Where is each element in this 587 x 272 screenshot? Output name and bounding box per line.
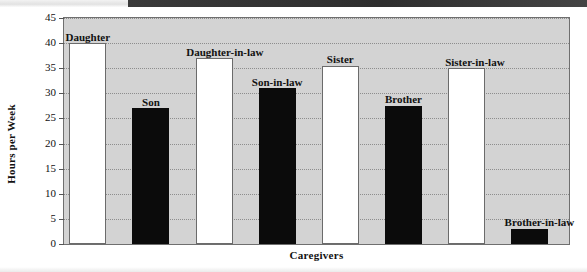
y-tick-mark [59, 244, 64, 245]
y-tick-label: 5 [51, 212, 57, 223]
bar-sister-in-law: Sister-in-law [448, 68, 485, 244]
bar-label: Daughter [66, 32, 111, 44]
y-tick-label: 0 [51, 238, 57, 249]
bar-sister: Sister [322, 66, 359, 244]
bar-label: Sister [327, 54, 354, 66]
y-axis-tick-labels: 454035302520151050 [24, 7, 60, 247]
bar-daughter: Daughter [69, 43, 106, 244]
y-axis-title: Hours per Week [2, 79, 20, 209]
y-tick-label: 45 [45, 12, 56, 23]
y-tick-label: 25 [45, 112, 56, 123]
y-tick-label: 35 [45, 62, 56, 73]
bar-label: Brother [385, 94, 422, 106]
page-edge-band-left [0, 0, 128, 7]
plot-area: DaughterSonDaughter-in-lawSon-in-lawSist… [63, 17, 570, 245]
y-tick-label: 30 [45, 87, 56, 98]
bar-label: Son [142, 97, 160, 109]
y-tick-label: 15 [45, 162, 56, 173]
y-tick-label: 40 [45, 37, 56, 48]
bar-series: DaughterSonDaughter-in-lawSon-in-lawSist… [64, 18, 569, 244]
bar-daughter-in-law: Daughter-in-law [196, 58, 233, 244]
bar-son: Son [132, 108, 169, 244]
page-edge-band [128, 0, 587, 7]
bar-son-in-law: Son-in-law [259, 88, 296, 244]
bar-label: Daughter-in-law [186, 47, 263, 59]
page-bottom-shade [0, 267, 587, 272]
bar-label: Brother-in-law [505, 217, 575, 229]
x-axis-title: Caregivers [63, 249, 570, 261]
y-tick-label: 20 [45, 137, 56, 148]
bar-chart-figure: Hours per Week 454035302520151050 Daught… [0, 7, 587, 272]
bar-brother-in-law: Brother-in-law [511, 229, 548, 244]
bar-brother: Brother [385, 106, 422, 244]
bar-label: Sister-in-law [445, 57, 504, 69]
y-tick-label: 10 [45, 187, 56, 198]
bar-label: Son-in-law [252, 77, 303, 89]
y-axis-title-text: Hours per Week [5, 104, 17, 183]
